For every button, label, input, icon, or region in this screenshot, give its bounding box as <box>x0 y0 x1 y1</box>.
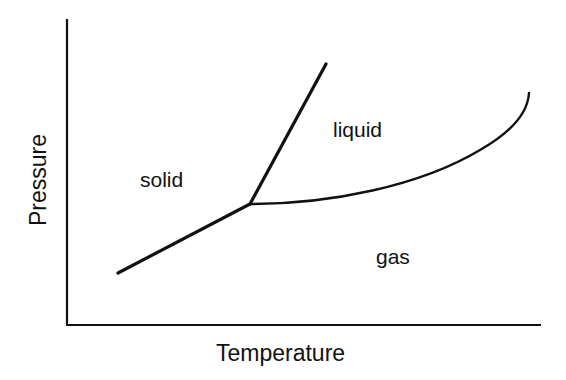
diagram-svg: solid liquid gas Temperature Pressure <box>0 0 566 380</box>
region-label-solid: solid <box>140 168 183 191</box>
y-axis-label: Pressure <box>25 134 51 226</box>
region-label-gas: gas <box>376 245 410 268</box>
vaporization-curve <box>250 93 529 204</box>
phase-diagram: solid liquid gas Temperature Pressure <box>0 0 566 380</box>
fusion-curve <box>250 64 326 204</box>
sublimation-curve <box>118 204 250 273</box>
x-axis-label: Temperature <box>216 340 345 366</box>
region-label-liquid: liquid <box>333 118 382 141</box>
